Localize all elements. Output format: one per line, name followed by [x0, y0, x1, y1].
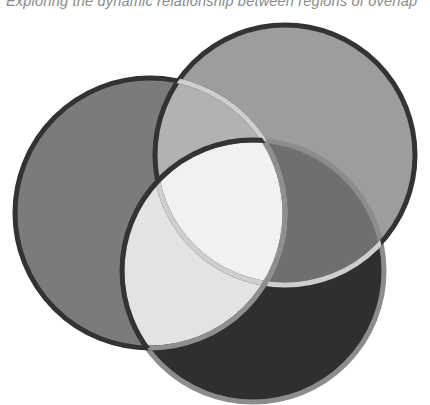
- venn-diagram: [0, 0, 430, 405]
